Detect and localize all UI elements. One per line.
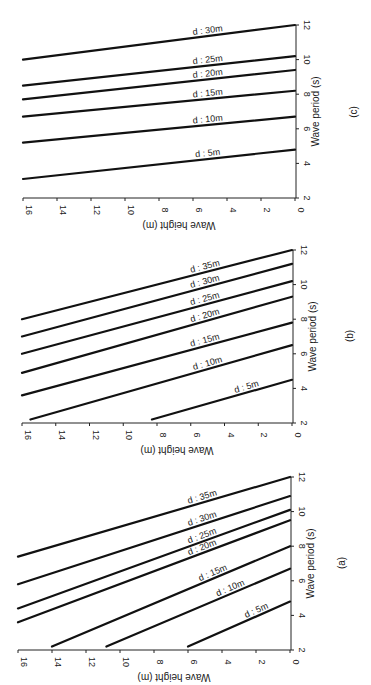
depth-line <box>22 281 292 354</box>
period-axis-title: Wave period (s) <box>305 528 316 598</box>
period-tick-label: 4 <box>297 613 307 618</box>
height-tick-label: 2 <box>257 659 267 664</box>
depth-line <box>152 380 292 420</box>
chart-canvas: 024681012141624681012Wave height (m)Wave… <box>0 0 371 685</box>
height-tick-label: 4 <box>228 207 238 212</box>
height-tick-label: 0 <box>296 207 306 212</box>
height-axis-title: Wave height (m) <box>141 445 214 456</box>
wave-height-period-figure: 024681012141624681012Wave height (m)Wave… <box>0 0 371 685</box>
height-tick-label: 12 <box>92 205 102 215</box>
period-tick-label: 2 <box>302 195 312 200</box>
height-tick-label: 14 <box>58 205 68 215</box>
height-tick-label: 6 <box>189 659 199 664</box>
height-tick-label: 4 <box>226 432 236 437</box>
panel-label-b: (b) <box>344 330 355 342</box>
height-tick-label: 16 <box>19 657 29 667</box>
period-tick-label: 12 <box>297 472 307 482</box>
period-tick-label: 2 <box>299 420 309 425</box>
height-tick-label: 2 <box>262 207 272 212</box>
height-axis-title: Wave height (m) <box>143 220 216 231</box>
height-tick-label: 8 <box>160 207 170 212</box>
period-tick-label: 10 <box>297 507 307 517</box>
height-tick-label: 10 <box>121 657 131 667</box>
height-tick-label: 16 <box>24 205 34 215</box>
period-axis-title: Wave period (s) <box>307 301 318 371</box>
depth-line <box>23 117 295 143</box>
depth-line <box>18 510 290 609</box>
height-tick-label: 8 <box>155 659 165 664</box>
height-tick-label: 14 <box>53 657 63 667</box>
height-tick-label: 8 <box>158 432 168 437</box>
depth-line <box>23 56 295 85</box>
period-tick-label: 10 <box>299 280 309 290</box>
height-tick-label: 0 <box>293 432 303 437</box>
height-tick-label: 4 <box>223 659 233 664</box>
panel-label-a: (a) <box>336 557 347 569</box>
period-tick-label: 2 <box>297 647 307 652</box>
height-tick-label: 6 <box>192 432 202 437</box>
height-tick-label: 10 <box>126 205 136 215</box>
period-tick-label: 10 <box>302 55 312 65</box>
depth-line <box>188 602 290 647</box>
depth-line <box>22 264 292 337</box>
height-tick-label: 12 <box>87 657 97 667</box>
period-tick-label: 4 <box>299 386 309 391</box>
period-axis-title: Wave period (s) <box>310 76 321 146</box>
height-tick-label: 10 <box>124 430 134 440</box>
height-tick-label: 2 <box>259 432 269 437</box>
depth-line <box>18 477 290 557</box>
height-tick-label: 0 <box>291 659 301 664</box>
height-tick-label: 14 <box>57 430 67 440</box>
height-tick-label: 6 <box>194 207 204 212</box>
height-tick-label: 12 <box>91 430 101 440</box>
panel-label-c: (c) <box>348 106 359 118</box>
depth-line <box>23 25 295 60</box>
period-tick-label: 12 <box>302 20 312 30</box>
height-tick-label: 16 <box>23 430 33 440</box>
period-tick-label: 4 <box>302 161 312 166</box>
depth-line <box>23 150 295 179</box>
height-axis-title: Wave height (m) <box>138 672 211 683</box>
period-tick-label: 12 <box>299 245 309 255</box>
